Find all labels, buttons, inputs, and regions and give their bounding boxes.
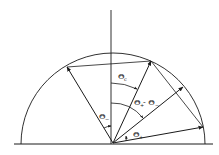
ray-middle xyxy=(113,87,183,143)
label-theta-plus: Θ + xyxy=(133,130,143,140)
label-theta-minus: Θ − xyxy=(99,112,109,122)
svg-text:−: − xyxy=(105,116,109,122)
svg-text:- Θ: - Θ xyxy=(143,98,155,107)
svg-text:c: c xyxy=(124,76,127,82)
ray-bottom xyxy=(113,127,203,143)
label-theta-c: Θ c xyxy=(118,72,127,82)
svg-text:−: − xyxy=(155,102,159,108)
chord-left-top xyxy=(67,61,151,67)
chord-top-right xyxy=(151,61,203,127)
ray-left xyxy=(67,67,113,143)
label-theta-plus-minus-theta-minus: Θ + - Θ − xyxy=(134,98,159,108)
svg-text:+: + xyxy=(139,134,143,140)
arc-theta-c xyxy=(111,83,137,89)
diagram-canvas: Θ c Θ + - Θ − Θ − Θ + xyxy=(0,0,219,155)
arc-theta-minus xyxy=(104,126,111,128)
semicircle xyxy=(21,53,205,144)
